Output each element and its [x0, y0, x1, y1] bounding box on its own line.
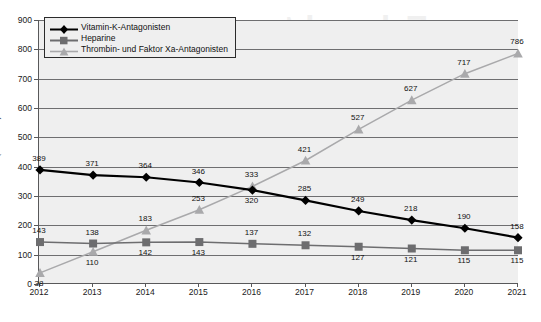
data-value-label: 346 — [192, 167, 205, 176]
data-value-label: 320 — [245, 196, 258, 205]
data-value-label: 127 — [351, 253, 364, 262]
x-axis-tick-label: 2016 — [242, 287, 261, 297]
data-point-marker — [88, 247, 98, 256]
x-axis-tick — [517, 283, 518, 287]
x-axis-labels: 2012201320142015201620172018201920202021 — [38, 287, 518, 307]
data-point-marker — [142, 238, 150, 246]
y-axis-tick-label: 200 — [18, 220, 32, 230]
x-axis-tick-label: 2019 — [401, 287, 420, 297]
data-point-marker — [513, 49, 523, 58]
triangle-marker-icon — [49, 43, 79, 54]
data-point-marker — [89, 171, 98, 180]
data-value-label: 143 — [192, 248, 205, 257]
data-point-marker — [301, 196, 310, 205]
x-axis-tick — [358, 283, 359, 287]
data-point-marker — [89, 240, 97, 248]
legend-item-thrombin-faktor-xa-antagonisten: Thrombin- und Faktor Xa-Antagonisten — [49, 43, 228, 54]
y-axis-tick — [34, 167, 38, 168]
x-axis-tick-label: 2018 — [348, 287, 367, 297]
y-axis-labels: 0100200300400500600700800900 — [0, 0, 38, 284]
x-axis-tick-label: 2012 — [30, 287, 49, 297]
data-value-label: 158 — [510, 222, 523, 231]
square-marker-icon — [49, 32, 79, 43]
data-point-marker — [248, 186, 257, 195]
data-value-label: 110 — [86, 258, 99, 267]
data-value-label: 218 — [404, 204, 417, 213]
data-point-marker — [195, 178, 204, 187]
x-axis-tick — [251, 283, 252, 287]
y-axis-tick — [34, 196, 38, 197]
y-axis-tick — [34, 79, 38, 80]
data-value-label: 364 — [139, 161, 152, 170]
data-value-label: 627 — [404, 84, 417, 93]
y-axis-tick-label: 400 — [18, 162, 32, 172]
data-point-marker — [195, 205, 205, 214]
data-point-marker — [514, 246, 522, 254]
plot-area — [38, 20, 518, 284]
data-value-label: 183 — [139, 214, 152, 223]
data-point-marker — [407, 95, 417, 104]
data-value-label: 421 — [298, 145, 311, 154]
y-axis-tick-label: 600 — [18, 103, 32, 113]
x-axis-tick-label: 2014 — [136, 287, 155, 297]
data-value-label: 142 — [139, 248, 152, 257]
legend-label: Heparine — [81, 33, 116, 43]
chart-legend: Vitamin-K-Antagonisten Heparine Thrombin… — [44, 17, 236, 58]
data-point-marker — [354, 125, 364, 134]
data-point-marker — [354, 206, 363, 215]
y-axis-tick — [34, 49, 38, 50]
data-point-marker — [195, 238, 203, 246]
legend-label: Thrombin- und Faktor Xa-Antagonisten — [81, 44, 228, 54]
x-axis-tick-label: 2020 — [454, 287, 473, 297]
x-axis-tick — [92, 283, 93, 287]
data-point-marker — [301, 156, 311, 165]
data-point-marker — [408, 245, 416, 253]
legend-label: Vitamin-K-Antagonisten — [81, 22, 170, 32]
y-axis-tick-label: 300 — [18, 191, 32, 201]
x-axis-tick — [198, 283, 199, 287]
y-axis-tick-label: 900 — [18, 15, 32, 25]
data-value-label: 137 — [245, 228, 258, 237]
data-value-label: 115 — [457, 256, 470, 265]
y-axis-tick — [34, 108, 38, 109]
legend-item-heparine: Heparine — [49, 32, 228, 43]
y-axis-tick-label: 100 — [18, 250, 32, 260]
data-point-marker — [407, 215, 416, 224]
x-axis-tick-label: 2017 — [295, 287, 314, 297]
data-point-marker — [142, 173, 151, 182]
data-value-label: 389 — [32, 154, 45, 163]
data-value-label: 786 — [510, 37, 523, 46]
data-value-label: 115 — [511, 256, 524, 265]
series-line — [40, 53, 518, 272]
data-value-label: 717 — [457, 58, 470, 67]
data-value-label: 249 — [351, 195, 364, 204]
x-axis-tick-label: 2021 — [508, 287, 527, 297]
y-axis-tick-label: 800 — [18, 44, 32, 54]
x-axis-tick — [411, 283, 412, 287]
series-line — [40, 242, 518, 250]
diamond-marker-icon — [49, 21, 79, 32]
data-value-label: 190 — [457, 212, 470, 221]
data-value-label: 253 — [192, 194, 205, 203]
data-point-marker — [460, 224, 469, 233]
data-value-label: 138 — [85, 228, 98, 237]
data-value-label: 38 — [35, 279, 44, 288]
chart-figure: Erkrankt zu rzneiverordnungs 2 in Deutsc… — [0, 0, 541, 322]
data-point-marker — [355, 243, 363, 251]
series-line — [40, 170, 518, 238]
data-value-label: 333 — [245, 170, 258, 179]
x-axis-tick — [464, 283, 465, 287]
y-axis-tick-label: 500 — [18, 132, 32, 142]
data-point-marker — [248, 240, 256, 248]
data-value-label: 371 — [85, 159, 98, 168]
data-value-label: 285 — [298, 184, 311, 193]
y-axis-tick-label: 700 — [18, 74, 32, 84]
data-value-label: 121 — [404, 255, 417, 264]
y-axis-tick — [34, 255, 38, 256]
data-value-label: 143 — [32, 226, 45, 235]
data-value-label: 132 — [298, 229, 311, 238]
data-point-marker — [302, 241, 310, 249]
legend-item-vitamin-k-antagonisten: Vitamin-K-Antagonisten — [49, 21, 228, 32]
data-point-marker — [461, 246, 469, 254]
y-axis-tick — [34, 20, 38, 21]
